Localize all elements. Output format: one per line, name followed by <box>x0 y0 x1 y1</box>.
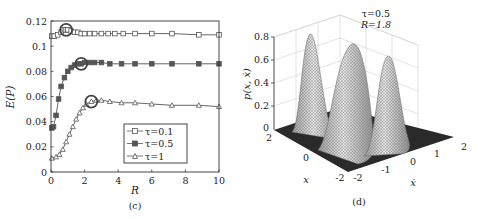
panel-c: 00.020.040.060.080.10.12 0246810 E(P) R … <box>0 0 240 219</box>
data-point <box>67 132 72 137</box>
z-axis-label: p(x, ẋ) <box>241 68 252 100</box>
z-tick: 0.4 <box>254 77 269 88</box>
x-tick: 10 <box>213 175 225 186</box>
x-axis-label: x <box>303 174 309 185</box>
data-point <box>133 61 138 66</box>
data-point <box>70 124 75 129</box>
z-tick: 0.6 <box>254 54 269 65</box>
legend-label-tau-0-5: τ=0.5 <box>145 138 173 149</box>
y-tick: 0.1 <box>32 41 47 52</box>
y-axis-ticks: 00.020.040.060.080.10.12 <box>26 16 54 178</box>
square-open-marker-icon <box>133 129 138 134</box>
panel-d: 0.8 0.6 0.4 0.2 0 p(x, ẋ) 2 0 -2 x -2 -1… <box>240 0 478 219</box>
data-point <box>60 147 65 152</box>
xdot-tick: -2 <box>353 172 362 183</box>
y-tick: 0.04 <box>26 116 47 127</box>
x-axis-label: R <box>130 184 139 196</box>
data-point <box>197 61 202 66</box>
panel-caption-d: (d) <box>352 196 366 207</box>
data-point <box>150 31 155 36</box>
y-tick: 0.02 <box>26 141 47 152</box>
data-point <box>87 31 92 36</box>
legend-label-tau-0-1: τ=0.1 <box>145 126 173 137</box>
data-point <box>82 31 87 36</box>
z-tick: 0.8 <box>254 31 269 42</box>
x-tick: 2 <box>266 132 272 143</box>
x-tick: 0 <box>303 152 309 163</box>
data-point <box>113 31 118 36</box>
xdot-tick: 1 <box>434 148 440 159</box>
xdot-tick: -1 <box>381 164 390 175</box>
data-point <box>133 31 138 36</box>
x-tick: 6 <box>149 175 155 186</box>
legend-label-tau-1: τ=1 <box>145 151 164 162</box>
annotation-tau: τ=0.5 <box>362 8 390 19</box>
data-point <box>99 31 104 36</box>
data-point <box>54 113 59 118</box>
data-point <box>150 61 155 66</box>
x-tick: 8 <box>182 175 188 186</box>
surface-plot-d: 0.8 0.6 0.4 0.2 0 p(x, ẋ) 2 0 -2 x -2 -1… <box>240 0 478 219</box>
xdot-axis-label: ẋ <box>410 177 416 188</box>
data-point <box>119 61 124 66</box>
square-filled-marker-icon <box>133 141 138 146</box>
data-point <box>59 84 64 89</box>
data-point <box>64 139 69 144</box>
data-point <box>121 31 126 36</box>
annotation-R: R=1.8 <box>360 19 391 30</box>
xdot-tick: 2 <box>461 141 467 152</box>
data-point <box>62 75 67 80</box>
legend: τ=0.1 τ=0.5 τ=1 <box>124 124 187 163</box>
data-point <box>170 61 175 66</box>
panel-caption-c: (c) <box>129 200 142 211</box>
data-point <box>106 31 111 36</box>
xdot-tick: 0 <box>410 156 416 167</box>
y-tick: 0 <box>41 167 47 178</box>
z-tick: 0.2 <box>254 100 269 111</box>
data-point <box>92 60 97 65</box>
data-point <box>108 61 113 66</box>
data-point <box>170 31 175 36</box>
data-point <box>74 117 79 122</box>
y-tick: 0.06 <box>26 91 47 102</box>
data-point <box>92 31 97 36</box>
x-tick: -2 <box>335 172 344 183</box>
line-chart-c: 00.020.040.060.080.10.12 0246810 E(P) R … <box>0 0 240 219</box>
data-point <box>51 124 56 129</box>
y-tick: 0.12 <box>26 16 47 27</box>
x-tick: 4 <box>115 175 121 186</box>
z-axis <box>271 37 274 130</box>
y-axis-label: E(P) <box>4 86 16 110</box>
data-point <box>56 97 61 102</box>
z-axis-ticks: 0.8 0.6 0.4 0.2 0 <box>254 31 269 133</box>
x-tick: 0 <box>48 175 54 186</box>
data-point <box>99 60 104 65</box>
x-tick: 2 <box>82 175 88 186</box>
data-point <box>197 33 202 38</box>
y-tick: 0.08 <box>26 66 47 77</box>
